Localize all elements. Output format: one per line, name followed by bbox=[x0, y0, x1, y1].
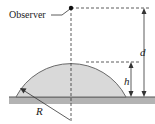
observer-point-icon bbox=[69, 6, 73, 10]
observer-label: Observer bbox=[9, 9, 46, 20]
d-arrowhead-bottom-icon bbox=[142, 91, 147, 97]
h-label: h bbox=[124, 75, 130, 87]
observer-leader-line bbox=[51, 9, 70, 15]
ground bbox=[9, 97, 155, 104]
h-arrowhead-bottom-icon bbox=[129, 91, 134, 97]
h-arrowhead-top-icon bbox=[129, 62, 134, 68]
d-label: d bbox=[140, 46, 146, 58]
observer-dome-diagram: Observer d h R bbox=[0, 0, 155, 124]
d-arrowhead-top-icon bbox=[142, 8, 147, 14]
R-label: R bbox=[35, 105, 43, 117]
